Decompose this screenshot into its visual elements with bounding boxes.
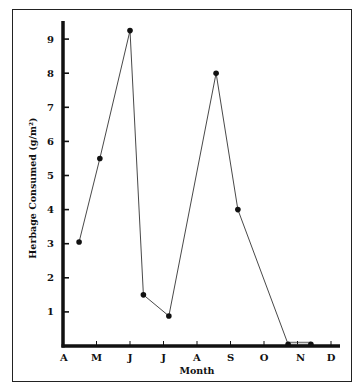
y-tick-label: 1 (47, 306, 54, 317)
axes (62, 21, 341, 348)
x-tick-label: M (91, 352, 102, 363)
y-axis-ticks: 123456789 (47, 34, 69, 318)
x-tick-label: A (59, 352, 68, 363)
y-tick-label: 7 (47, 102, 54, 113)
data-point-marker (213, 70, 219, 76)
x-tick-label: D (327, 352, 336, 363)
x-axis-title: Month (179, 365, 214, 376)
data-series (76, 28, 313, 347)
y-tick-label: 8 (47, 68, 54, 79)
x-tick-label: J (160, 352, 166, 363)
y-axis-title: Herbage Consumed (g/m²) (27, 117, 38, 258)
y-tick-label: 5 (47, 170, 54, 181)
y-tick-label: 9 (47, 34, 54, 45)
data-point-marker (76, 239, 82, 245)
data-point-marker (127, 28, 133, 34)
y-tick-label: 4 (47, 204, 54, 215)
x-tick-label: A (192, 352, 201, 363)
data-point-marker (235, 207, 241, 213)
x-tick-label: S (227, 352, 234, 363)
data-point-marker (285, 341, 291, 347)
y-tick-label: 6 (47, 136, 54, 147)
y-tick-label: 3 (47, 238, 54, 249)
data-point-marker (141, 292, 147, 298)
line-chart: 123456789 AMJJASOND Month Herbage Consum… (0, 0, 363, 389)
x-tick-label: N (296, 352, 305, 363)
x-tick-label: J (127, 352, 133, 363)
data-point-marker (166, 313, 172, 319)
data-point-marker (308, 341, 314, 347)
series-line (79, 31, 311, 345)
x-tick-label: O (260, 352, 269, 363)
y-tick-label: 2 (47, 272, 54, 283)
data-point-marker (97, 156, 103, 162)
